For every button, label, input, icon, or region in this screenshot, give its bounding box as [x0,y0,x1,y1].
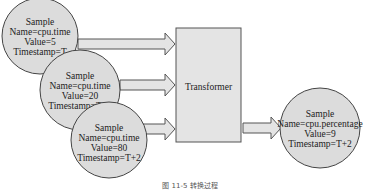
sample-timestamp: Timestamp=T+2 [288,139,352,149]
transformer-label: Transformer [185,82,233,92]
sample-value: Value=20 [62,91,99,101]
sample-title: Sample [306,109,335,119]
sample-name: Name=cpu.time [78,133,139,143]
sample-timestamp: Timestamp=T+2 [77,153,141,163]
sample-value: Value=80 [91,143,128,153]
sample-title: Sample [95,123,124,133]
input-sample-3: Sample Name=cpu.time Value=80 Timestamp=… [71,102,147,178]
sample-name: Name=cpu.time [49,81,110,91]
sample-value: Value=9 [304,129,336,139]
transformation-diagram: Transformer Sample Name=cpu.time Value=5… [0,0,365,194]
figure-caption: 图 11-5 转换过程 [162,181,217,190]
sample-title: Sample [66,71,95,81]
sample-value: Value=5 [24,37,56,47]
sample-title: Sample [26,17,55,27]
arrow-input-2 [120,74,175,96]
sample-name: Name=cpu.time [9,27,70,37]
output-sample: Sample Name=cpu.percentage Value=9 Times… [277,88,362,168]
sample-name: Name=cpu.percentage [277,119,362,129]
arrow-output [243,117,281,139]
